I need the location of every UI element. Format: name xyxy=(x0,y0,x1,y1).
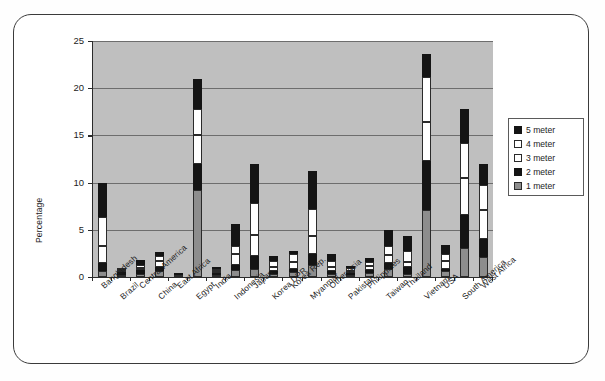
legend-swatch-4-meter-icon xyxy=(514,140,522,148)
legend-swatch-5-meter-icon xyxy=(514,126,522,134)
legend-label-1-meter: 1 meter xyxy=(526,181,555,191)
legend-label-3-meter: 3 meter xyxy=(526,153,555,163)
x-tick-label: Japan xyxy=(251,268,275,291)
legend-label-4-meter: 4 meter xyxy=(526,139,555,149)
legend-swatch-1-meter-icon xyxy=(514,182,522,190)
legend-label-2-meter: 2 meter xyxy=(526,167,555,177)
legend-item-2-meter[interactable]: 2 meter xyxy=(514,165,579,179)
chart-figure: Percentage 0510152025 BangladeshBrazilCe… xyxy=(0,0,605,381)
screenshot-page: Percentage 0510152025 BangladeshBrazilCe… xyxy=(0,0,605,381)
legend-item-3-meter[interactable]: 3 meter xyxy=(514,151,579,165)
legend-item-1-meter[interactable]: 1 meter xyxy=(514,179,579,193)
legend[interactable]: 5 meter 4 meter 3 meter 2 meter 1 meter xyxy=(508,118,584,196)
legend-swatch-3-meter-icon xyxy=(514,154,522,162)
legend-item-5-meter[interactable]: 5 meter xyxy=(514,123,579,137)
legend-swatch-2-meter-icon xyxy=(514,168,522,176)
legend-item-4-meter[interactable]: 4 meter xyxy=(514,137,579,151)
legend-label-5-meter: 5 meter xyxy=(526,125,555,135)
